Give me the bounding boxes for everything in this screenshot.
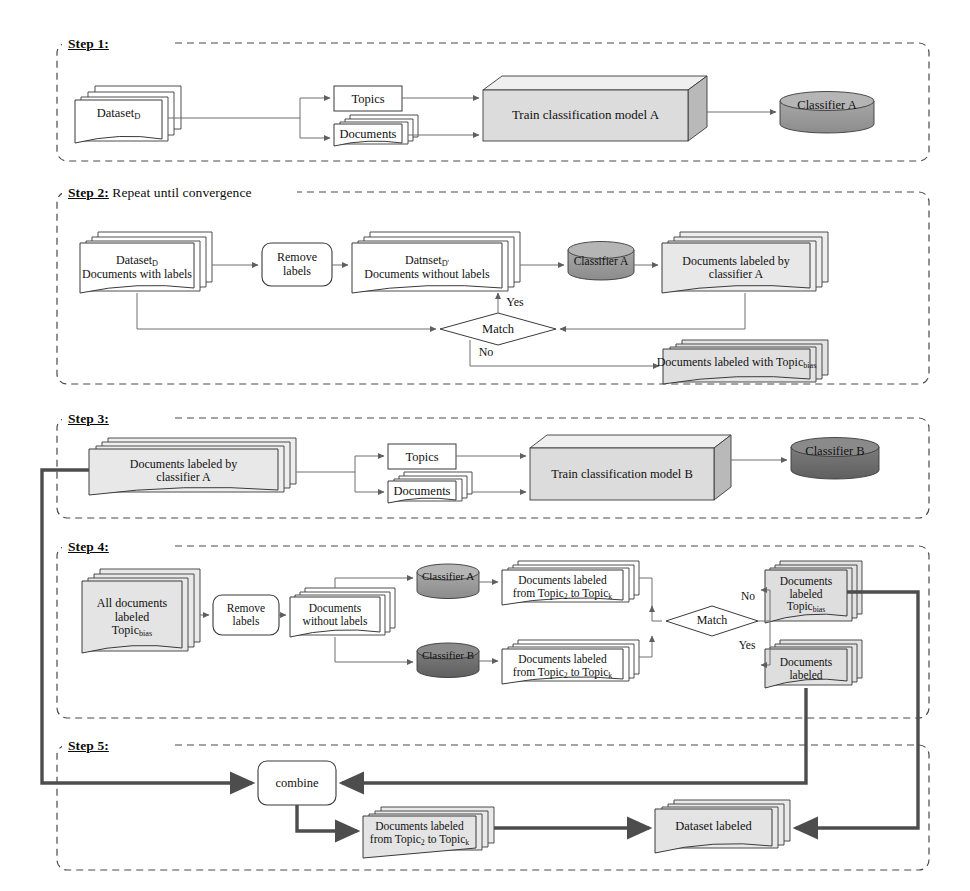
step1-documents-stack	[334, 115, 418, 146]
step2-topic-bias-stack	[663, 340, 828, 384]
step5-combine-box	[258, 761, 336, 805]
step3-label: Step 3:	[68, 411, 109, 427]
step4-classifier-b-cylinder	[417, 643, 479, 678]
step1-classifier-a-cylinder	[780, 92, 874, 133]
step4-label: Step 4:	[68, 539, 109, 555]
diagram-canvas: Step 1: Step 2: Repeat until convergence…	[0, 0, 970, 891]
step4-docs-a-stack	[502, 561, 639, 605]
step1-train-model-3dbox	[483, 76, 707, 141]
step2-remove-labels-box	[262, 243, 332, 286]
step4-out-yes-stack	[765, 640, 862, 688]
step1-dataset-stack	[75, 86, 181, 143]
step2-match-diamond	[440, 313, 556, 345]
step3-topics-box	[388, 444, 456, 469]
step4-all-docs-stack	[82, 569, 200, 653]
step2-label: Step 2: Repeat until convergence	[68, 185, 252, 201]
step4-classifier-a-cylinder	[417, 564, 479, 599]
step2-dataset-prime-stack	[352, 232, 520, 293]
step4-docs-no-labels-stack	[290, 588, 395, 637]
step5-panel	[57, 738, 929, 870]
step2-classifier-a-cylinder	[568, 242, 634, 281]
step2-docs-labeled-stack	[662, 232, 828, 293]
step5-docs-stack	[363, 807, 494, 858]
step3-train-model-3dbox	[530, 435, 731, 500]
step3-docs-labeled-stack	[89, 438, 296, 495]
step3-documents-stack	[388, 472, 472, 503]
step2-dataset-stack	[80, 232, 212, 293]
step5-dataset-labeled-stack	[655, 800, 790, 853]
step3-classifier-b-cylinder	[791, 438, 879, 480]
step4-docs-b-stack	[502, 640, 639, 684]
step1-topics-box	[334, 86, 402, 111]
step1-label: Step 1:	[68, 36, 109, 52]
step4-match-diamond	[666, 606, 758, 636]
step4-remove-labels-box	[213, 595, 279, 635]
step5-label: Step 5:	[68, 738, 109, 754]
flowchart-svg	[0, 0, 970, 891]
